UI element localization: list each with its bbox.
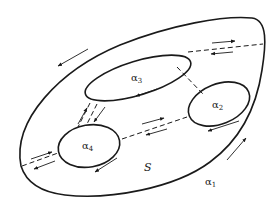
- arrow-icon: [142, 118, 164, 124]
- arrow-icon: [78, 108, 87, 124]
- cut-alpha4-alpha1-a: [22, 153, 58, 166]
- surface-diagram: [0, 0, 279, 207]
- arrow-icon: [211, 52, 233, 54]
- arrow-icon: [136, 89, 157, 96]
- cut-alpha3-alpha2: [177, 67, 203, 94]
- arrow-icon: [94, 107, 105, 122]
- arrow-icon: [227, 138, 246, 160]
- arrow-icon: [34, 161, 55, 169]
- label-alpha1: α1: [205, 177, 216, 189]
- cut-alpha3-alpha4-a: [78, 103, 90, 127]
- arrow-icon: [212, 41, 235, 43]
- region-label-s: S: [144, 162, 152, 173]
- label-alpha3: α3: [131, 73, 142, 85]
- arrow-icon: [31, 152, 52, 159]
- outer-boundary-alpha1: [20, 17, 265, 196]
- cut-alpha3-alpha1: [188, 44, 263, 52]
- label-alpha4: α4: [82, 141, 93, 153]
- label-alpha2: α2: [212, 100, 223, 112]
